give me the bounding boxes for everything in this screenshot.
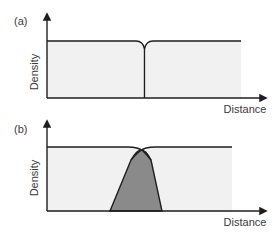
panel-b-y-axis-label: Density bbox=[28, 159, 40, 196]
panel-b-label: (b) bbox=[14, 123, 27, 135]
panel-b-x-axis-label: Distance bbox=[224, 216, 267, 228]
panel-a-label: (a) bbox=[14, 15, 27, 27]
panel-a: (a) Density Distance bbox=[14, 14, 266, 115]
panel-a-y-axis-label: Density bbox=[28, 53, 40, 90]
panel-a-x-axis-label: Distance bbox=[224, 103, 267, 115]
panel-b: (b) Density Distance bbox=[14, 121, 266, 228]
figure-canvas: (a) Density Distance (b) Density Distanc… bbox=[0, 0, 280, 235]
